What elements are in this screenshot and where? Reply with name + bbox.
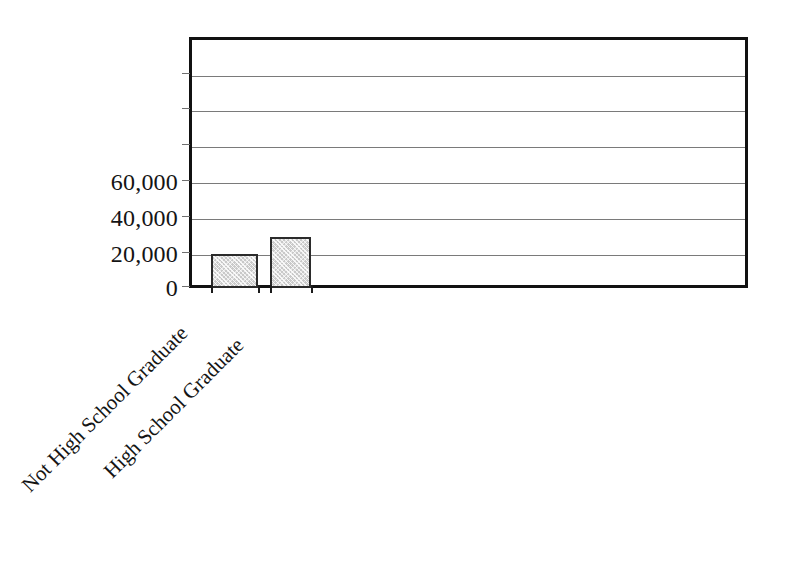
y-axis-label-40000: 40,000 xyxy=(111,206,178,230)
y-axis-label-0: 0 xyxy=(166,276,178,300)
gridline xyxy=(192,255,745,256)
gridline xyxy=(192,111,745,112)
x-axis-tick xyxy=(258,285,260,293)
y-axis-tick xyxy=(182,144,190,145)
x-axis-tick xyxy=(211,285,213,293)
y-axis-label-20000: 20,000 xyxy=(111,242,178,266)
x-axis-ticks xyxy=(189,285,748,295)
bar-chart: 60,000 40,000 20,000 0 Not High School G… xyxy=(0,0,790,586)
y-axis-label-60000: 60,000 xyxy=(111,170,178,194)
x-axis-label-not-high-school-graduate: Not High School Graduate xyxy=(17,322,191,496)
y-axis-tick xyxy=(182,73,190,74)
plot-area xyxy=(189,37,748,288)
y-axis-tick xyxy=(182,252,190,253)
y-axis-labels: 60,000 40,000 20,000 0 xyxy=(0,37,178,288)
y-axis-tick xyxy=(182,108,190,109)
y-axis-tick xyxy=(182,216,190,217)
gridlines xyxy=(192,40,745,285)
gridline xyxy=(192,76,745,77)
gridline xyxy=(192,147,745,148)
gridline xyxy=(192,183,745,184)
y-axis-tick xyxy=(182,180,190,181)
gridline xyxy=(192,219,745,220)
x-axis-tick xyxy=(270,285,272,293)
y-axis-ticks xyxy=(182,37,190,288)
x-axis-tick xyxy=(311,285,313,293)
x-axis-label-high-school-graduate: High School Graduate xyxy=(99,334,247,482)
